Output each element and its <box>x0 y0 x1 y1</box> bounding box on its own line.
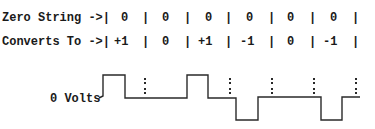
bit-boundary-markers <box>144 78 357 94</box>
waveform-line <box>99 75 360 120</box>
ami-waveform <box>0 0 375 129</box>
